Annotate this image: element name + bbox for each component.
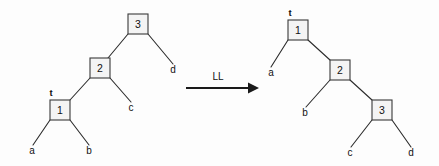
left-node-1-label: 1: [57, 104, 63, 116]
tree-rotation-figure: 3 2 1 t a b c d LL: [0, 0, 439, 166]
transform-arrow: LL: [186, 71, 259, 94]
right-edge-3-to-c: [351, 120, 372, 147]
left-edge-2-to-c: [110, 78, 131, 102]
left-node-2-label: 2: [97, 62, 103, 74]
right-node-2-label: 2: [337, 64, 343, 76]
left-leaf-d: d: [170, 64, 176, 75]
right-leaf-d: d: [408, 147, 414, 158]
left-node-3-label: 3: [135, 18, 141, 30]
left-leaf-b: b: [86, 145, 92, 156]
left-edge-1-to-a: [33, 120, 50, 145]
left-leaf-a: a: [29, 145, 35, 156]
arrow-head-icon: [248, 83, 259, 94]
right-leaf-b: b: [302, 107, 308, 118]
left-edge-3-to-2: [108, 34, 128, 58]
diagram-canvas: 3 2 1 t a b c d LL: [0, 0, 439, 166]
right-node-1-label: 1: [295, 24, 301, 36]
left-root-tag: t: [49, 87, 53, 98]
right-edge-3-to-d: [392, 120, 411, 147]
right-edge-1-to-a: [271, 40, 288, 67]
right-tree: 1 2 3 t a b c d: [268, 7, 414, 158]
right-node-3-label: 3: [379, 104, 385, 116]
right-edge-2-to-3: [350, 80, 372, 100]
right-leaf-a: a: [268, 67, 274, 78]
right-root-tag: t: [288, 7, 292, 18]
right-edge-2-to-b: [306, 80, 330, 107]
arrow-label: LL: [212, 71, 224, 82]
left-leaf-c: c: [129, 102, 134, 113]
left-edge-1-to-b: [70, 120, 89, 145]
right-leaf-c: c: [348, 147, 353, 158]
right-edge-1-to-2: [308, 40, 330, 60]
left-tree: 3 2 1 t a b c d: [29, 14, 176, 156]
left-edge-3-to-d: [148, 34, 173, 64]
left-edge-2-to-1: [70, 78, 90, 100]
